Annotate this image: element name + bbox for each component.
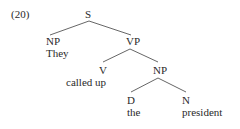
node-n: N	[182, 94, 190, 106]
node-np-object: NP	[153, 64, 167, 76]
edge-s-np	[50, 21, 89, 35]
node-v: V	[99, 64, 107, 76]
node-d: D	[127, 94, 135, 106]
node-vp: VP	[126, 35, 140, 47]
word-they: They	[46, 47, 69, 59]
edge-np-n	[158, 78, 186, 92]
node-np-subject: NP	[46, 35, 60, 47]
edge-np-d	[131, 78, 158, 92]
node-s: S	[85, 8, 91, 20]
word-president: president	[182, 106, 222, 118]
word-called-up: called up	[66, 76, 106, 88]
edge-vp-np	[130, 49, 158, 62]
edge-s-vp	[89, 21, 131, 35]
word-the: the	[127, 106, 140, 118]
edge-vp-v	[103, 49, 130, 62]
